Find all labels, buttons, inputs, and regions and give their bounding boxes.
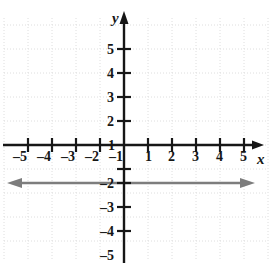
y-axis: [117, 11, 131, 263]
y-tick-label-1: 1: [108, 139, 115, 153]
y-tick-label-5: 5: [107, 43, 114, 57]
y-tick-label-2: 2: [107, 115, 114, 129]
x-tick-label-1: 1: [145, 150, 152, 164]
line-left-arrowhead: [7, 178, 22, 188]
y-tick-label-3: 3: [107, 91, 114, 105]
x-tick-label-3: 3: [192, 150, 199, 164]
y-tick-label-neg4: –4: [100, 225, 114, 239]
x-tick-label-4: 4: [216, 150, 223, 164]
graph-canvas: [0, 0, 273, 263]
x-tick-label-neg2: –2: [85, 150, 99, 164]
line-right-arrowhead: [240, 178, 255, 188]
x-tick-label-neg4: –4: [37, 150, 51, 164]
y-axis-arrowhead: [120, 11, 129, 24]
x-tick-label-5: 5: [240, 150, 247, 164]
y-tick-label-neg5: –5: [100, 249, 114, 263]
x-tick-label-2: 2: [168, 150, 175, 164]
x-tick-label-neg5: –5: [13, 150, 27, 164]
coordinate-plane-figure: –5 –4 –3 –2 –1 1 2 3 4 5 5 4 3 2 1 –2 –3…: [0, 0, 273, 263]
grid-lines: [4, 18, 268, 259]
y-tick-label-neg3: –3: [100, 201, 114, 215]
y-tick-label-4: 4: [107, 67, 114, 81]
x-tick-label-neg3: –3: [61, 150, 75, 164]
x-axis-name-label: x: [257, 152, 265, 167]
x-axis-arrowhead: [252, 141, 264, 150]
y-axis-name-label: y: [112, 11, 119, 26]
y-tick-label-neg2: –2: [100, 177, 114, 191]
